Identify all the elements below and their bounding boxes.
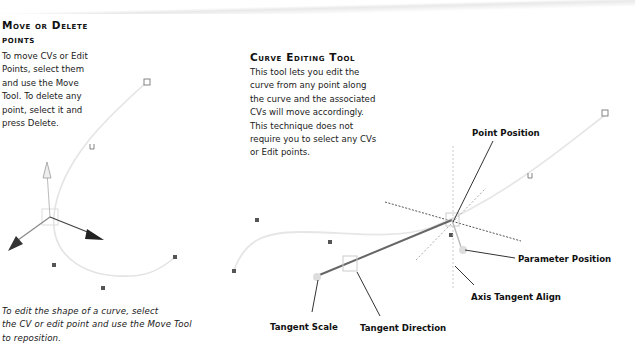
cv-point-icon — [52, 263, 56, 267]
tangent-scale-label: Tangent Scale — [270, 322, 338, 332]
nurbs-curve — [234, 115, 605, 270]
point-position-callout — [453, 141, 493, 222]
cv-point-icon — [173, 255, 177, 259]
move-manipulator-icon — [43, 162, 51, 178]
tangent-direction-label: Tangent Direction — [360, 323, 446, 333]
nurbs-curve — [54, 82, 175, 276]
tangent-scale-callout — [312, 280, 318, 312]
cv-point-icon — [602, 110, 608, 116]
cv-point-icon — [101, 286, 105, 290]
move-y-axis — [47, 172, 50, 217]
point-position-label: Point Position — [472, 128, 540, 138]
axis-tangent-align-label: Axis Tangent Align — [471, 292, 561, 302]
cv-point-icon — [255, 218, 259, 222]
parameter-position-callout — [465, 250, 515, 258]
cv-point-icon — [328, 240, 332, 244]
illustration-canvas — [0, 0, 635, 358]
cv-point-icon — [449, 233, 453, 237]
right-curve-figure — [232, 110, 608, 316]
cv-point-icon — [144, 79, 150, 85]
parameter-position-label: Parameter Position — [518, 254, 611, 264]
diagonal-guide — [416, 188, 486, 260]
left-curve-figure — [8, 79, 177, 290]
tangent-scale-handle — [313, 273, 321, 281]
move-manipulator-icon — [85, 229, 104, 240]
move-x-axis — [18, 217, 50, 240]
tangent-line — [317, 220, 452, 276]
cv-point-icon — [232, 269, 236, 273]
curve-start-u-icon — [90, 144, 94, 149]
axis-tangent-align-callout — [455, 266, 474, 285]
tangent-direction-callout — [357, 272, 380, 316]
